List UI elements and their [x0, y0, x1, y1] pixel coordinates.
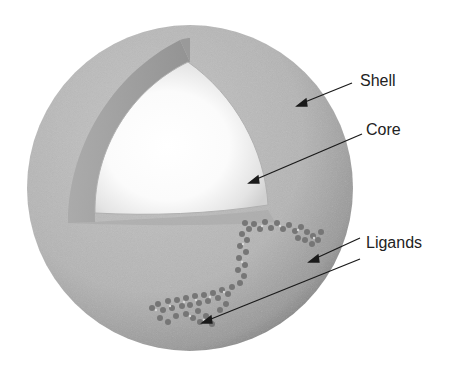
shell-label: Shell — [360, 73, 396, 89]
diagram-graphic — [0, 0, 462, 376]
ligands-label: Ligands — [366, 235, 422, 251]
core-label: Core — [366, 122, 401, 138]
nanoparticle-diagram: Shell Core Ligands — [0, 0, 462, 376]
